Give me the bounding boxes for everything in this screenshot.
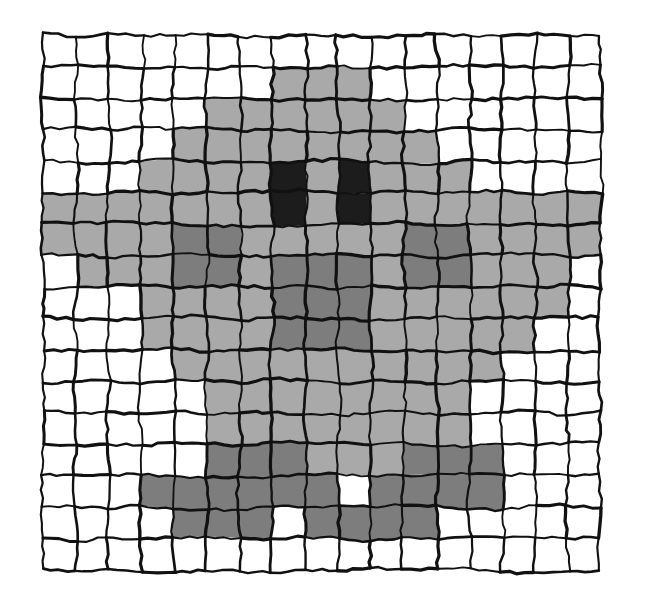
figure-stage: Hand-drawn wobbly grid of squares with s… (0, 0, 661, 613)
hand-drawn-grid-heatmap (0, 0, 661, 613)
